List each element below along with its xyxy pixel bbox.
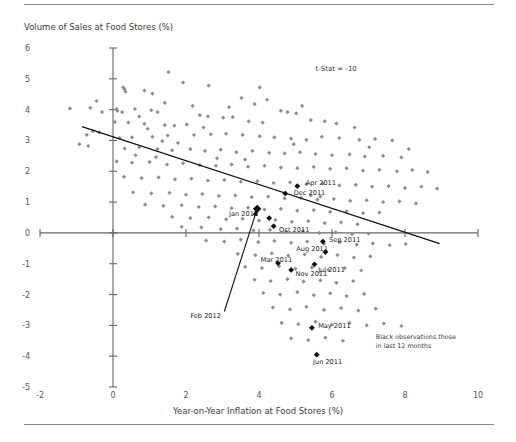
data-point — [170, 148, 174, 152]
data-point — [300, 104, 304, 108]
data-point — [246, 206, 250, 210]
data-point — [280, 321, 284, 325]
data-point — [351, 279, 355, 283]
x-tick-label: 2 — [183, 391, 188, 400]
data-point — [323, 336, 327, 340]
data-point — [298, 150, 302, 154]
data-point — [328, 167, 332, 171]
data-point — [289, 336, 293, 340]
data-point — [295, 209, 299, 213]
data-point — [227, 105, 231, 109]
y-tick-label: -2 — [22, 291, 30, 300]
data-point-label: May 2011 — [318, 322, 351, 330]
data-point — [335, 253, 339, 257]
data-point — [131, 190, 135, 194]
data-point — [305, 239, 309, 243]
data-point — [181, 80, 185, 84]
data-point — [374, 307, 378, 311]
highlighted-data-point — [309, 325, 315, 331]
data-point — [365, 198, 369, 202]
data-point — [170, 215, 174, 219]
data-point — [224, 132, 228, 136]
data-point — [253, 102, 257, 106]
data-point — [399, 324, 403, 328]
data-point — [382, 321, 386, 325]
data-point — [261, 291, 265, 295]
data-point — [180, 225, 184, 229]
data-point-label: Nov 2011 — [296, 270, 328, 278]
data-point — [147, 160, 151, 164]
data-point-label: Aug 2011 — [296, 245, 328, 253]
x-tick-label: 4 — [256, 391, 261, 400]
data-point — [285, 277, 289, 281]
data-point — [312, 208, 316, 212]
data-point — [253, 253, 257, 257]
data-point — [426, 170, 430, 174]
data-point — [188, 216, 192, 220]
data-point — [273, 218, 277, 222]
data-point — [222, 239, 226, 243]
data-point — [166, 70, 170, 74]
data-point — [201, 125, 205, 129]
y-tick-label: -1 — [22, 260, 30, 269]
data-point — [267, 151, 271, 155]
data-point — [279, 165, 283, 169]
data-point — [239, 96, 243, 100]
data-point — [334, 230, 338, 234]
data-point — [214, 164, 218, 168]
data-point — [403, 186, 407, 190]
data-point — [269, 279, 273, 283]
data-point — [395, 169, 399, 173]
annotation-black-note-line2: in last 12 months — [376, 342, 432, 350]
data-point — [279, 207, 283, 211]
data-point — [386, 184, 390, 188]
data-point — [332, 197, 336, 201]
data-point — [268, 228, 272, 232]
data-point — [359, 268, 363, 272]
data-point — [356, 308, 360, 312]
data-point-label: Dec 2011 — [294, 189, 326, 197]
data-point — [206, 178, 210, 182]
data-point — [130, 161, 134, 165]
data-point — [301, 280, 305, 284]
data-point — [317, 231, 321, 235]
data-point — [339, 220, 343, 224]
data-point — [123, 146, 127, 150]
x-tick-label: 8 — [402, 391, 407, 400]
data-point — [247, 119, 251, 123]
data-point — [345, 166, 349, 170]
data-point — [160, 139, 164, 143]
data-point — [354, 183, 358, 187]
data-point — [188, 147, 192, 151]
data-point-label: Mar 2011 — [261, 256, 292, 264]
data-point — [184, 193, 188, 197]
data-point — [234, 150, 238, 154]
data-point — [260, 266, 264, 270]
y-tick-label: 2 — [25, 167, 30, 176]
data-point — [130, 135, 134, 139]
data-point — [272, 181, 276, 185]
data-point — [172, 124, 176, 128]
data-point — [236, 252, 240, 256]
highlighted-data-point — [314, 352, 320, 358]
data-point — [295, 290, 299, 294]
data-point — [250, 149, 254, 153]
data-point — [137, 114, 141, 118]
data-point — [371, 241, 375, 245]
data-point — [330, 153, 334, 157]
data-point — [279, 109, 283, 113]
data-point — [224, 217, 228, 221]
data-point — [285, 110, 289, 114]
data-point — [328, 291, 332, 295]
data-point — [166, 133, 170, 137]
data-point — [278, 292, 282, 296]
data-point — [377, 210, 381, 214]
data-point — [377, 168, 381, 172]
y-tick-label: 4 — [25, 106, 30, 115]
y-tick-label: 5 — [25, 75, 30, 84]
data-point — [143, 202, 147, 206]
y-axis-title: Volume of Sales at Food Stores (%) — [24, 22, 173, 32]
data-point — [315, 198, 319, 202]
data-point — [323, 221, 327, 225]
data-point — [266, 194, 270, 198]
